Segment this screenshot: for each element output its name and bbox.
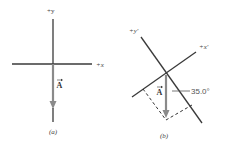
- y-prime-axis-line: [141, 37, 202, 123]
- x-prime-axis-label: +x′: [199, 43, 209, 51]
- panel-a: +y +x A (a): [12, 7, 105, 136]
- x-prime-axis-line: [132, 52, 196, 97]
- panel-b: +y′ +x′ A 35.0° (b): [129, 27, 210, 140]
- angle-label: 35.0°: [191, 87, 210, 96]
- caption-b: (b): [160, 132, 169, 140]
- component-dashed-lines: [143, 89, 192, 120]
- vector-a: [50, 64, 57, 122]
- vector-a-prime: [163, 75, 170, 118]
- vector-label-b: A: [157, 86, 164, 97]
- caption-a: (a): [49, 128, 58, 136]
- arrowhead-icon: [50, 101, 57, 109]
- y-prime-axis-label: +y′: [129, 27, 139, 35]
- svg-text:A: A: [57, 81, 63, 90]
- y-axis-label: +y: [47, 7, 55, 15]
- x-axis-label: +x: [96, 61, 105, 69]
- diagram-canvas: +y +x A (a) +y′ +x′ A 35.0°: [0, 0, 227, 148]
- svg-text:A: A: [157, 88, 163, 97]
- vector-label-a: A: [57, 79, 64, 90]
